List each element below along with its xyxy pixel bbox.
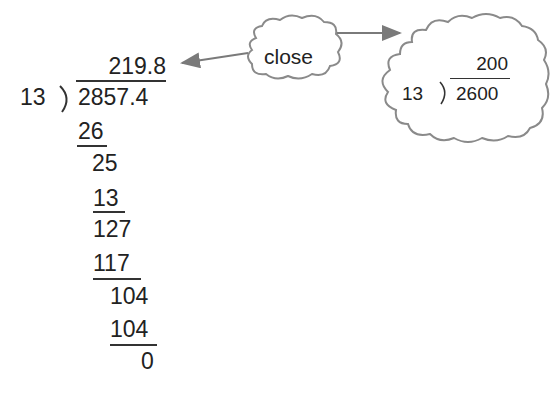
estimate-dividend: 2600 <box>456 84 498 103</box>
estimate-bracket <box>0 0 556 394</box>
